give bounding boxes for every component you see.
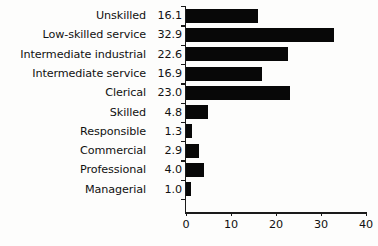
value-label: 1.3: [152, 126, 186, 137]
y-axis-tick: [181, 160, 186, 161]
x-axis-tick: [276, 212, 277, 216]
y-axis-tick: [181, 25, 186, 26]
y-axis-tick: [181, 45, 186, 46]
y-axis-tick: [181, 199, 186, 200]
chart-row: Skilled4.8: [0, 102, 378, 121]
x-axis-tick-label: 30: [314, 219, 328, 230]
y-axis-tick: [181, 83, 186, 84]
x-axis-tick-label: 40: [359, 219, 373, 230]
bar: [186, 144, 199, 158]
x-axis-tick-label: 10: [224, 219, 238, 230]
value-label: 16.1: [152, 10, 186, 21]
chart-rows: Unskilled16.1Low-skilled service32.9Inte…: [0, 6, 378, 199]
value-label: 4.8: [152, 107, 186, 118]
bar-track: [186, 122, 378, 141]
bar: [186, 124, 192, 138]
x-axis-tick: [186, 212, 187, 216]
chart-row: Clerical23.0: [0, 83, 378, 102]
chart-row: Low-skilled service32.9: [0, 25, 378, 44]
horizontal-bar-chart: Unskilled16.1Low-skilled service32.9Inte…: [0, 0, 378, 246]
category-label: Unskilled: [0, 10, 152, 21]
bar-track: [186, 64, 378, 83]
y-axis-tick: [181, 141, 186, 142]
y-axis-tick: [181, 6, 186, 7]
category-label: Intermediate service: [0, 68, 152, 79]
chart-row: Unskilled16.1: [0, 6, 378, 25]
value-label: 4.0: [152, 164, 186, 175]
bar: [186, 67, 262, 81]
category-label: Low-skilled service: [0, 29, 152, 40]
bar: [186, 163, 204, 177]
x-axis-tick-label: 0: [182, 219, 189, 230]
bar-track: [186, 25, 378, 44]
y-axis-tick: [181, 64, 186, 65]
bar-track: [186, 83, 378, 102]
chart-row: Commercial2.9: [0, 141, 378, 160]
category-label: Managerial: [0, 184, 152, 195]
value-label: 16.9: [152, 68, 186, 79]
bar-track: [186, 6, 378, 25]
value-label: 22.6: [152, 49, 186, 60]
bar: [186, 28, 334, 42]
y-axis-tick: [181, 180, 186, 181]
y-axis-tick: [181, 122, 186, 123]
category-label: Responsible: [0, 126, 152, 137]
y-axis-line: [185, 6, 186, 213]
value-label: 32.9: [152, 29, 186, 40]
category-label: Clerical: [0, 87, 152, 98]
bar-track: [186, 45, 378, 64]
chart-row: Intermediate industrial22.6: [0, 45, 378, 64]
x-axis-tick-label: 20: [269, 219, 283, 230]
bar: [186, 182, 191, 196]
x-axis-tick: [321, 212, 322, 216]
bar: [186, 9, 258, 23]
bar: [186, 47, 288, 61]
chart-row: Intermediate service16.9: [0, 64, 378, 83]
bar-track: [186, 102, 378, 121]
chart-row: Managerial1.0: [0, 180, 378, 199]
value-label: 1.0: [152, 184, 186, 195]
chart-row: Professional4.0: [0, 160, 378, 179]
category-label: Skilled: [0, 107, 152, 118]
bar: [186, 105, 208, 119]
x-axis-tick: [231, 212, 232, 216]
category-label: Intermediate industrial: [0, 49, 152, 60]
category-label: Commercial: [0, 145, 152, 156]
bar: [186, 86, 290, 100]
category-label: Professional: [0, 164, 152, 175]
value-label: 23.0: [152, 87, 186, 98]
x-axis-tick: [366, 212, 367, 216]
bar-track: [186, 141, 378, 160]
y-axis-tick: [181, 103, 186, 104]
bar-track: [186, 180, 378, 199]
bar-track: [186, 160, 378, 179]
value-label: 2.9: [152, 145, 186, 156]
chart-row: Responsible1.3: [0, 122, 378, 141]
